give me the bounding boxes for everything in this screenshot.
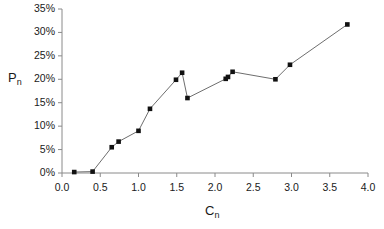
y-axis-tick-label: 35% xyxy=(34,2,55,14)
y-axis-tick-label: 30% xyxy=(34,25,55,37)
y-axis-tick-label: 5% xyxy=(40,143,55,155)
x-axis-title-base: C xyxy=(205,203,214,218)
x-axis-ticks xyxy=(62,173,368,177)
y-axis-tick-label: 15% xyxy=(34,96,55,108)
y-axis-tick-label: 0% xyxy=(40,166,55,178)
x-axis-tick-label: 1.0 xyxy=(119,181,159,193)
data-point-marker xyxy=(116,139,121,144)
data-point-marker xyxy=(226,75,231,80)
y-axis-tick-label: 20% xyxy=(34,72,55,84)
x-axis-tick-label: 2.5 xyxy=(233,181,273,193)
x-axis-title: Cn xyxy=(205,203,219,218)
x-axis-tick-label: 4.0 xyxy=(348,181,384,193)
y-axis-title-base: P xyxy=(8,70,17,85)
x-axis-tick-label: 1.5 xyxy=(157,181,197,193)
chart-plot-area xyxy=(0,0,384,229)
x-axis-tick-label: 3.5 xyxy=(310,181,350,193)
x-axis-group xyxy=(62,173,368,177)
data-point-marker xyxy=(136,129,141,134)
x-axis-tick-label: 3.0 xyxy=(272,181,312,193)
series-line-path xyxy=(74,24,347,172)
data-point-marker xyxy=(185,96,190,101)
data-point-marker xyxy=(288,62,293,67)
series-data-markers xyxy=(72,22,350,174)
chart-container: 0%5%10%15%20%25%30%35% 0.00.51.01.52.02.… xyxy=(0,0,384,229)
data-point-marker xyxy=(90,169,95,174)
data-point-marker xyxy=(273,77,278,82)
x-axis-tick-label: 2.0 xyxy=(195,181,235,193)
x-axis-tick-label: 0.5 xyxy=(80,181,120,193)
data-point-marker xyxy=(180,70,185,75)
y-axis-group xyxy=(58,9,62,173)
x-axis-title-subscript: n xyxy=(214,210,219,220)
data-point-marker xyxy=(72,170,77,175)
x-axis-tick-label: 0.0 xyxy=(42,181,82,193)
y-axis-ticks xyxy=(58,9,62,173)
data-point-marker xyxy=(148,107,153,112)
y-axis-title: Pn xyxy=(8,70,22,85)
data-point-marker xyxy=(345,22,350,27)
y-axis-tick-label: 25% xyxy=(34,49,55,61)
y-axis-tick-label: 10% xyxy=(34,119,55,131)
data-point-marker xyxy=(109,145,114,150)
series-line xyxy=(74,24,347,172)
data-point-marker xyxy=(230,69,235,74)
data-point-marker xyxy=(174,77,179,82)
y-axis-title-subscript: n xyxy=(17,77,22,87)
